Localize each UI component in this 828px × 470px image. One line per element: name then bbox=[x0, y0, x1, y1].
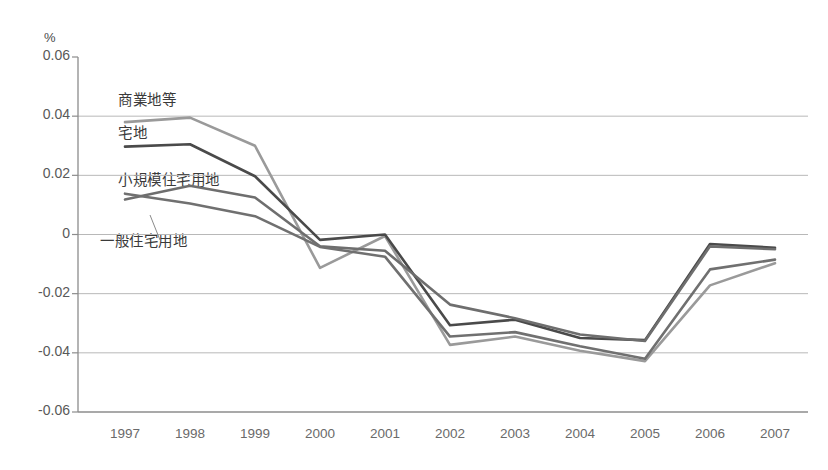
gridlines bbox=[78, 57, 808, 353]
annotation-leader-line bbox=[150, 215, 160, 240]
chart-plot-area bbox=[0, 0, 828, 470]
chart-container: % 0.060.040.020-0.02-0.04-0.06 199719981… bbox=[0, 0, 828, 470]
series-line bbox=[125, 194, 775, 359]
series-line bbox=[125, 144, 775, 340]
axis-ticks bbox=[72, 57, 78, 412]
series-lines bbox=[125, 118, 775, 361]
